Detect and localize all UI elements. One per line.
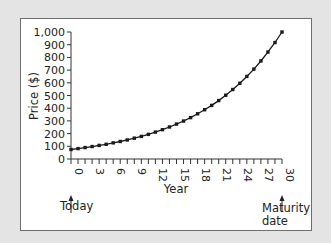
data-point-marker <box>217 99 220 102</box>
data-point-marker <box>196 112 199 115</box>
x-tick-label: 27 <box>262 168 275 182</box>
y-tick-label: 200 <box>44 128 65 141</box>
data-point-marker <box>238 82 241 85</box>
maturity-annotation: Maturity date <box>262 195 310 228</box>
maturity-label-line1: Maturity <box>262 201 310 215</box>
y-tick-label: 900 <box>44 39 65 52</box>
data-point-marker <box>126 138 129 141</box>
data-point-marker <box>252 67 255 70</box>
x-tick-label: 15 <box>178 168 191 182</box>
data-point-marker <box>168 125 171 128</box>
data-point-marker <box>175 122 178 125</box>
y-tick-label: 600 <box>44 77 65 90</box>
data-point-marker <box>83 146 86 149</box>
data-point-marker <box>224 94 227 97</box>
x-tick-label: 12 <box>156 168 169 182</box>
y-tick-label: 1,000 <box>34 26 66 39</box>
data-point-marker <box>97 144 100 147</box>
y-tick-label: 300 <box>44 115 65 128</box>
x-tick-label: 3 <box>93 168 106 175</box>
x-tick-label: 9 <box>135 168 148 175</box>
x-tick-label: 6 <box>114 168 127 175</box>
data-point-marker <box>140 135 143 138</box>
data-point-marker <box>273 41 276 44</box>
x-tick-label: 24 <box>241 168 254 182</box>
x-tick-label: 18 <box>199 168 212 182</box>
y-tick-label: 700 <box>44 64 65 77</box>
y-tick-label: 400 <box>44 102 65 115</box>
data-point-marker <box>154 130 157 133</box>
y-tick-label: 100 <box>44 140 65 153</box>
x-tick-label: 0 <box>72 168 85 175</box>
y-tick-label: 800 <box>44 51 65 64</box>
data-point-marker <box>231 88 234 91</box>
data-point-marker <box>266 50 269 53</box>
today-annotation: Today <box>59 195 93 213</box>
y-tick-label: 500 <box>44 90 65 103</box>
data-point-marker <box>161 128 164 131</box>
today-label: Today <box>59 199 93 213</box>
data-point-marker <box>245 75 248 78</box>
data-point-marker <box>210 104 213 107</box>
x-axis: 036912151821242730 <box>71 159 296 182</box>
price-series <box>69 30 283 151</box>
zero-coupon-price-chart: 01002003004005006007008009001,000 036912… <box>0 0 331 243</box>
data-point-marker <box>203 108 206 111</box>
data-point-marker <box>90 145 93 148</box>
data-point-marker <box>259 59 262 62</box>
data-point-marker <box>133 136 136 139</box>
x-axis-title: Year <box>163 182 189 196</box>
data-point-marker <box>189 116 192 119</box>
y-axis-title: Price ($) <box>27 72 41 120</box>
price-line <box>71 32 282 150</box>
x-tick-label: 21 <box>220 168 233 182</box>
data-point-marker <box>76 147 79 150</box>
data-point-marker <box>119 140 122 143</box>
data-point-marker <box>182 119 185 122</box>
data-point-marker <box>112 141 115 144</box>
x-tick-label: 30 <box>283 168 296 182</box>
data-point-marker <box>280 30 283 33</box>
data-point-marker <box>69 148 72 151</box>
data-point-marker <box>147 133 150 136</box>
maturity-label-line2: date <box>262 214 288 228</box>
y-tick-label: 0 <box>58 153 65 166</box>
data-point-marker <box>104 143 107 146</box>
